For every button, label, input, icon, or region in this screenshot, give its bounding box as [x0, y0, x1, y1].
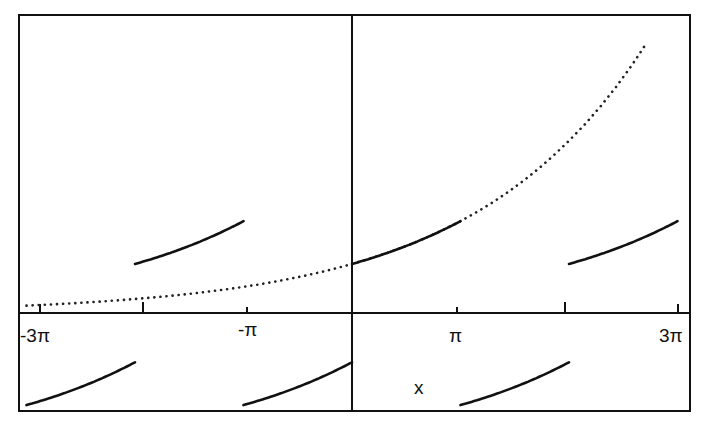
lower-segment [244, 362, 353, 405]
dotted-curve [27, 42, 648, 305]
upper-segment [135, 221, 244, 264]
lower-segment [461, 362, 570, 405]
tick-label-pi: π [449, 326, 462, 345]
plot-frame [19, 15, 690, 411]
upper-segment [569, 221, 678, 264]
tick-label-neg3pi: -3π [20, 326, 50, 345]
lower-segment [27, 362, 136, 405]
tick-label-negpi: -π [238, 320, 257, 339]
x-axis-label: x [414, 378, 424, 397]
x-ticks [40, 302, 678, 313]
plot-canvas [0, 0, 703, 431]
tick-label-3pi: 3π [659, 326, 683, 345]
upper-segment [352, 221, 461, 264]
